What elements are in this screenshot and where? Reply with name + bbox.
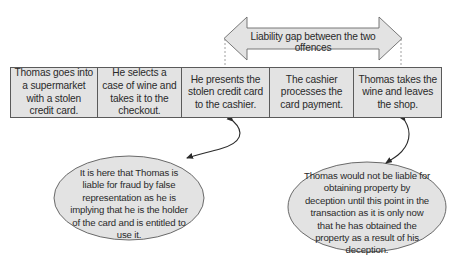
connector-step5-to-callout2 bbox=[386, 121, 409, 163]
liability-gap-label: Liability gap between the two offences bbox=[238, 31, 388, 53]
step-selects-wine: He selects a case of wine and takes it t… bbox=[98, 68, 183, 117]
transaction-steps-row: Thomas goes into a supermarket with a st… bbox=[10, 67, 442, 118]
step-card-processed: The cashier processes the card payment. bbox=[270, 68, 355, 117]
step-enters-supermarket: Thomas goes into a supermarket with a st… bbox=[11, 68, 98, 117]
connector-step3-to-callout1 bbox=[187, 121, 240, 158]
callout-deception-text: Thomas would not be liable for obtaining… bbox=[303, 170, 431, 257]
step-presents-card: He presents the stolen credit card to th… bbox=[182, 68, 270, 117]
step-leaves-shop: Thomas takes the wine and leaves the sho… bbox=[354, 68, 441, 117]
callout-fraud-text: It is here that Thomas is liable for fra… bbox=[68, 167, 190, 241]
